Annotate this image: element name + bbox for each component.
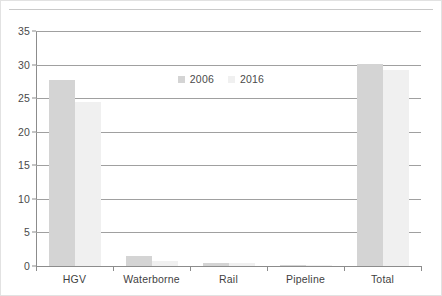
x-axis-line xyxy=(36,266,421,267)
bar-group-pipeline xyxy=(267,31,344,266)
x-axis-label-waterborne: Waterborne xyxy=(113,270,190,290)
bar-groups xyxy=(36,31,421,266)
y-tick-label-10: 10 xyxy=(18,193,30,205)
x-axis-labels: HGVWaterborneRailPipelineTotal xyxy=(36,270,421,290)
y-tick-label-25: 25 xyxy=(18,92,30,104)
y-tick-label-0: 0 xyxy=(24,260,30,272)
y-tick-label-5: 5 xyxy=(24,226,30,238)
bar-total-2006[interactable] xyxy=(357,64,383,266)
bar-group-total xyxy=(344,31,421,266)
x-axis-label-hgv: HGV xyxy=(36,270,113,290)
y-tick-label-35: 35 xyxy=(18,25,30,37)
y-tick-label-15: 15 xyxy=(18,159,30,171)
bar-group-rail xyxy=(190,31,267,266)
bar-group-waterborne xyxy=(113,31,190,266)
plot-area: 05101520253035 xyxy=(36,31,421,266)
bar-waterborne-2006[interactable] xyxy=(126,256,152,266)
x-axis-label-rail: Rail xyxy=(190,270,267,290)
x-axis-label-total: Total xyxy=(344,270,421,290)
chart-figure: 05101520253035 HGVWaterborneRailPipeline… xyxy=(0,0,442,296)
y-tick-label-30: 30 xyxy=(18,59,30,71)
bar-hgv-2016[interactable] xyxy=(75,102,101,267)
bar-group-hgv xyxy=(36,31,113,266)
header-divider xyxy=(9,9,433,10)
x-tick-mark-5 xyxy=(421,266,422,271)
y-tick-label-20: 20 xyxy=(18,126,30,138)
x-axis-label-pipeline: Pipeline xyxy=(267,270,344,290)
bar-hgv-2006[interactable] xyxy=(49,80,75,266)
bar-total-2016[interactable] xyxy=(383,70,409,266)
